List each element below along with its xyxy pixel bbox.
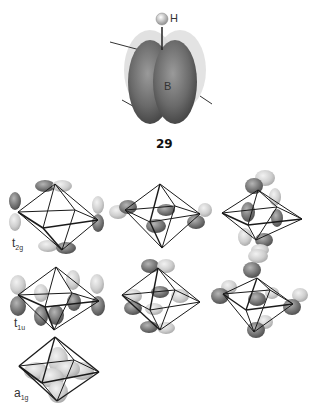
bh-orbital-figure xyxy=(110,13,212,124)
figure-number: 29 xyxy=(156,137,173,151)
t2g-orbital-3 xyxy=(222,170,302,256)
a1g-orbital xyxy=(19,337,99,403)
orbital-label-a1g: a1g xyxy=(14,386,28,401)
orbital-label-t2g: t2g xyxy=(12,236,23,251)
atom-label-h: H xyxy=(170,12,178,24)
label-main: a xyxy=(14,386,21,400)
t2g-orbital-1 xyxy=(9,180,104,254)
t2g-orbital-2 xyxy=(109,184,212,248)
figure-canvas xyxy=(0,0,326,410)
orbital-label-t1u: t1u xyxy=(14,316,25,331)
label-sub: 1u xyxy=(17,324,25,331)
t1u-orbital-2 xyxy=(122,259,200,334)
label-sub: 2g xyxy=(15,244,23,251)
t1u-orbital-3 xyxy=(211,249,308,338)
atom-label-b: B xyxy=(164,80,171,92)
label-sub: 1g xyxy=(21,394,29,401)
